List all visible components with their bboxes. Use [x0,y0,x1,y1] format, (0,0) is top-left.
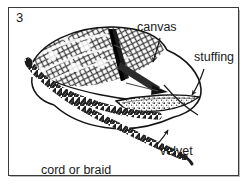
figure-container: 3 [0,0,248,185]
stuffing-layer [116,95,199,111]
label-canvas: canvas [137,20,177,34]
label-stuffing: stuffing [194,50,234,64]
label-cord-or-braid: cord or braid [41,163,111,176]
pincushion-illustration: canvas stuffing velvet cord or braid [8,7,239,176]
leader-line-stuffing [192,69,204,95]
cord-knot [25,59,32,67]
label-velvet: velvet [160,144,193,158]
leader-line-velvet [157,130,168,145]
